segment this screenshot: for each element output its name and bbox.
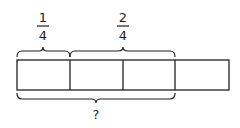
fraction-two-fourths: 2 4 [117, 10, 129, 43]
denominator: 4 [39, 28, 47, 43]
brace-two-fourths [70, 47, 175, 57]
tape-diagram: 1 4 2 4 ? [0, 0, 240, 128]
numerator: 2 [119, 10, 127, 25]
fraction-one-fourth: 1 4 [37, 10, 49, 43]
numerator: 1 [39, 10, 47, 25]
brace-unknown [17, 93, 175, 103]
denominator: 4 [119, 28, 127, 43]
unknown-label: ? [93, 107, 100, 122]
tape-bar [17, 60, 229, 90]
brace-one-fourth [17, 47, 70, 57]
